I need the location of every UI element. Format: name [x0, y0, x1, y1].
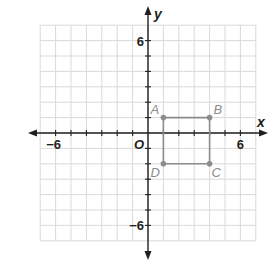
polygon-vertices: ABCD [149, 102, 222, 180]
tick-label-y-6: 6 [137, 34, 144, 49]
vertex-a-dot [161, 115, 167, 121]
coordinate-plane: x y O −6 6 6 −6 ABCD [0, 0, 276, 266]
y-axis-arrow-down-icon [145, 251, 152, 260]
polygon-abcd [163, 118, 209, 164]
y-axis-arrow-up-icon [145, 6, 152, 15]
tick-label-x-6: 6 [237, 137, 244, 152]
tick-label-x-neg6: −6 [46, 137, 61, 152]
vertex-d-label: D [150, 165, 159, 180]
vertex-b-dot [207, 115, 213, 121]
y-axis-label: y [153, 6, 163, 22]
vertex-d-dot [161, 161, 167, 167]
x-axis-arrow-left-icon [28, 130, 37, 137]
x-axis-arrow-right-icon [259, 130, 268, 137]
x-axis-label: x [256, 114, 266, 130]
origin-label: O [134, 137, 144, 152]
vertex-a-label: A [149, 102, 159, 117]
vertex-c-label: C [212, 165, 222, 180]
tick-label-y-neg6: −6 [129, 218, 144, 233]
vertex-b-label: B [214, 102, 223, 117]
